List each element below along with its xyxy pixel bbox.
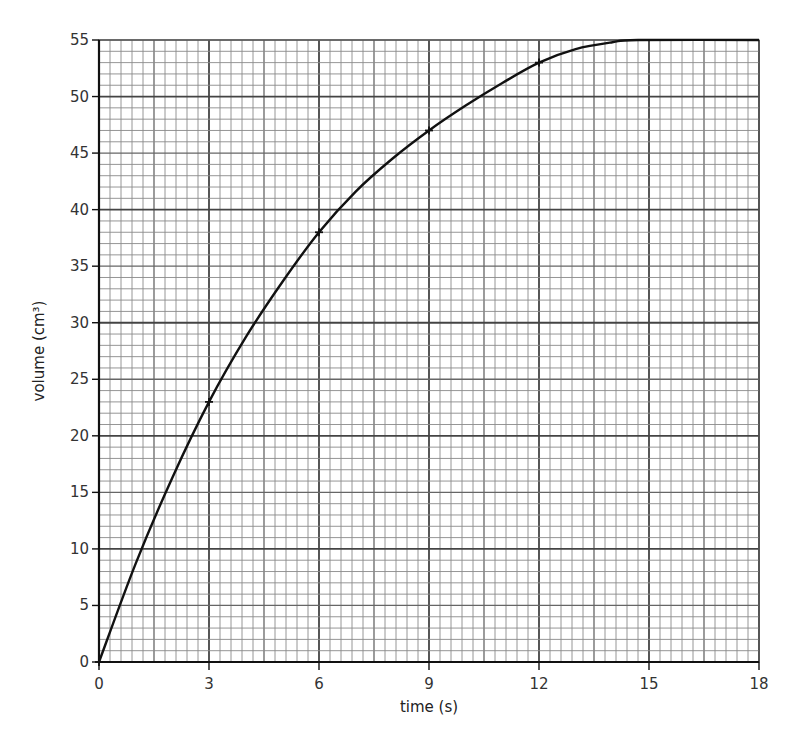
y-tick-label: 0 (79, 653, 89, 671)
y-axis-label: volume (cm³) (30, 301, 48, 402)
x-tick-label: 0 (94, 675, 104, 693)
plus-marker-icon (535, 59, 543, 67)
x-tick-label: 12 (529, 675, 548, 693)
x-tick-label: 18 (749, 675, 768, 693)
y-tick-label: 15 (70, 483, 89, 501)
y-tick-label: 35 (70, 257, 89, 275)
x-tick-label: 6 (314, 675, 324, 693)
x-axis-ticks: 0369121518 (94, 662, 768, 693)
y-tick-label: 30 (70, 314, 89, 332)
x-tick-label: 15 (639, 675, 658, 693)
plus-marker-icon (95, 658, 103, 666)
y-tick-label: 55 (70, 31, 89, 49)
y-axis-ticks: 0510152025303540455055 (70, 31, 99, 671)
line-chart: 0369121518 0510152025303540455055 time (… (0, 0, 805, 754)
y-tick-label: 50 (70, 88, 89, 106)
y-tick-label: 25 (70, 370, 89, 388)
x-axis-label: time (s) (400, 698, 458, 716)
x-tick-label: 3 (204, 675, 214, 693)
y-tick-label: 40 (70, 201, 89, 219)
y-tick-label: 45 (70, 144, 89, 162)
x-tick-label: 9 (424, 675, 434, 693)
y-tick-label: 5 (79, 596, 89, 614)
y-tick-label: 10 (70, 540, 89, 558)
y-tick-label: 20 (70, 427, 89, 445)
